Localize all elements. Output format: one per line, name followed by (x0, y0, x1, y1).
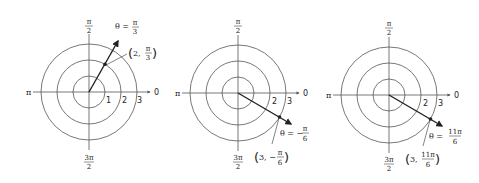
ring-label-3: 3 (137, 96, 142, 105)
svg-text:π: π (303, 125, 308, 133)
svg-text:θ =: θ = (115, 22, 129, 31)
theta-label: θ = π 3 (115, 19, 139, 36)
svg-text:θ = −: θ = − (280, 129, 303, 138)
label-3pi-over-2-den: 2 (387, 165, 391, 173)
theta-label: θ = 11π 6 (429, 128, 462, 146)
svg-text:6: 6 (278, 159, 283, 167)
svg-text:3: 3 (146, 54, 150, 62)
label-pi-over-2-den: 2 (87, 27, 91, 35)
ring-label-2: 2 (122, 96, 127, 105)
ring-label-1: 1 (106, 96, 111, 105)
label-pi: π (326, 91, 331, 100)
label-pi: π (175, 89, 180, 98)
svg-text:3, −: 3, − (259, 153, 276, 162)
svg-text:11π: 11π (421, 151, 435, 159)
label-pi-over-2-num: π (87, 18, 92, 26)
plotted-point (103, 63, 107, 67)
point-label: ( 3, 11π 6 ) (405, 151, 440, 169)
polar-graph-1: π 2 π 0 3π 2 1 2 3 θ = π 3 ( 2, π 3 ) (26, 18, 159, 171)
label-zero: 0 (454, 91, 459, 100)
svg-text:): ) (152, 46, 157, 61)
svg-text:6: 6 (303, 135, 308, 143)
polar-diagrams: π 2 π 0 3π 2 1 2 3 θ = π 3 ( 2, π 3 ) (0, 0, 479, 183)
svg-text:θ =: θ = (429, 132, 443, 141)
svg-text:6: 6 (426, 161, 431, 169)
svg-text:π: π (146, 45, 151, 53)
svg-text:3: 3 (133, 28, 137, 36)
label-3pi-over-2-den: 2 (87, 163, 91, 171)
label-pi-over-2-num: π (236, 18, 241, 26)
polar-graph-3: π 2 π 0 3π 2 2 3 θ = 11π 6 ( 3, 11π 6 ) (326, 20, 462, 173)
svg-text:π: π (133, 19, 138, 27)
point-label: ( 3, − π 6 ) (254, 149, 289, 167)
label-3pi-over-2-num: 3π (84, 154, 93, 162)
point-label: ( 2, π 3 ) (128, 45, 157, 62)
label-3pi-over-2-den: 2 (236, 163, 240, 171)
label-pi-over-2-num: π (387, 20, 392, 28)
svg-text:6: 6 (453, 138, 458, 146)
ring-label-3: 3 (287, 97, 292, 106)
ring-label-2: 2 (272, 97, 277, 106)
svg-text:2,: 2, (133, 49, 141, 58)
label-zero: 0 (303, 89, 308, 98)
ring-label-2: 2 (423, 99, 428, 108)
polar-graph-2: π 2 π 0 3π 2 2 3 θ = − π 6 ( 3, − π 6 ) (175, 18, 309, 171)
plotted-point (429, 117, 433, 121)
svg-text:π: π (278, 149, 283, 157)
label-3pi-over-2-num: 3π (233, 154, 242, 162)
svg-text:): ) (435, 152, 440, 167)
label-zero: 0 (154, 88, 159, 97)
ring-label-3: 3 (438, 99, 443, 108)
plotted-point (278, 115, 282, 119)
svg-text:): ) (284, 150, 289, 165)
leader-line (272, 118, 279, 144)
label-pi-over-2-den: 2 (236, 27, 240, 35)
label-3pi-over-2-num: 3π (384, 156, 393, 164)
label-pi: π (26, 88, 31, 97)
theta-label: θ = − π 6 (280, 125, 309, 143)
label-pi-over-2-den: 2 (387, 29, 391, 37)
svg-text:3,: 3, (410, 155, 418, 164)
svg-text:11π: 11π (448, 128, 462, 136)
